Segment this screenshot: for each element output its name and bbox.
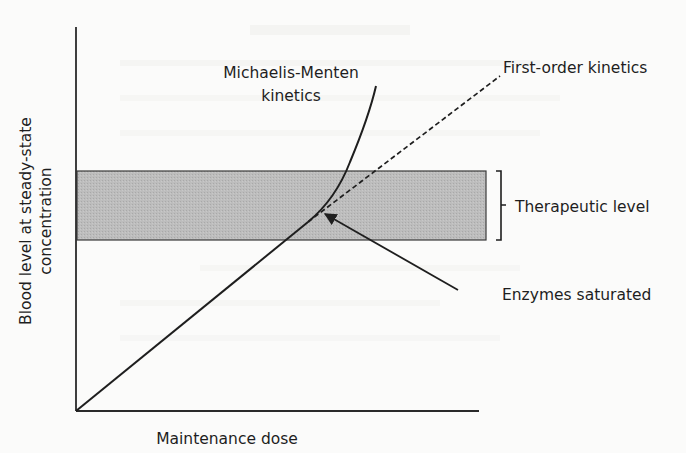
therapeutic-bracket (496, 171, 506, 240)
pharmacokinetics-figure: Michaelis-Menten kinetics First-order ki… (0, 0, 686, 453)
therapeutic-label: Therapeutic level (514, 198, 650, 216)
y-axis-label-line1: Blood level at steady-state (17, 117, 35, 325)
x-axis-label: Maintenance dose (156, 430, 298, 448)
chart-canvas: Michaelis-Menten kinetics First-order ki… (0, 0, 686, 453)
therapeutic-band (77, 171, 486, 240)
first-order-line-solid (76, 222, 308, 411)
enzymes-saturated-label: Enzymes saturated (502, 286, 651, 304)
mm-label-line2: kinetics (261, 87, 321, 105)
y-axis-label-line2: concentration (37, 167, 55, 274)
mm-label-line1: Michaelis-Menten (223, 64, 359, 82)
y-axis-label: Blood level at steady-state concentratio… (17, 117, 55, 325)
first-order-label: First-order kinetics (503, 59, 647, 77)
